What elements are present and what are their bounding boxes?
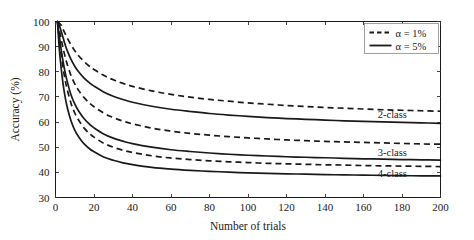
x-tick-label: 100 (240, 201, 257, 213)
y-tick-label: 100 (33, 16, 50, 28)
figure-container: 020406080100120140160180200 304050607080… (0, 0, 474, 240)
y-axis-title: Accuracy (%) (9, 77, 22, 141)
x-tick-label: 120 (278, 201, 295, 213)
annotation-2-class: 2-class (378, 109, 407, 120)
y-tick-label: 30 (39, 192, 51, 204)
chart-legend: α = 1%α = 5% (365, 24, 439, 54)
y-tick-label: 90 (39, 41, 51, 53)
annotation-4-class: 4-class (378, 168, 407, 179)
y-tick-label: 60 (39, 116, 51, 128)
x-tick-label: 160 (355, 201, 372, 213)
annotation-3-class: 3-class (378, 147, 407, 158)
accuracy-vs-trials-chart: 020406080100120140160180200 304050607080… (0, 0, 474, 240)
y-tick-label: 50 (39, 141, 51, 153)
x-tick-label: 0 (53, 201, 59, 213)
x-tick-label: 40 (127, 201, 139, 213)
x-tick-label: 140 (317, 201, 334, 213)
x-axis-title: Number of trials (210, 220, 287, 232)
legend-label-2: α = 5% (396, 41, 427, 52)
x-tick-label: 60 (166, 201, 178, 213)
y-tick-label: 80 (39, 66, 51, 78)
x-tick-label: 80 (204, 201, 216, 213)
x-tick-labels: 020406080100120140160180200 (53, 201, 450, 213)
y-tick-labels: 30405060708090100 (33, 16, 50, 204)
series-annotations: 2-class3-class4-class (378, 109, 407, 179)
x-tick-label: 200 (432, 201, 449, 213)
y-tick-label: 70 (39, 91, 51, 103)
x-tick-label: 180 (394, 201, 411, 213)
x-tick-label: 20 (89, 201, 101, 213)
y-tick-label: 40 (39, 166, 51, 178)
legend-label-1: α = 1% (396, 28, 427, 39)
